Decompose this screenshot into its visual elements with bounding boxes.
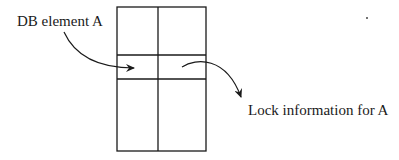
lock-table-grid <box>117 7 206 151</box>
lock-info-label: Lock information for A <box>248 103 388 118</box>
stray-dot-mark <box>366 17 368 19</box>
db-element-label: DB element A <box>17 14 103 29</box>
db-element-arrow <box>64 32 134 68</box>
